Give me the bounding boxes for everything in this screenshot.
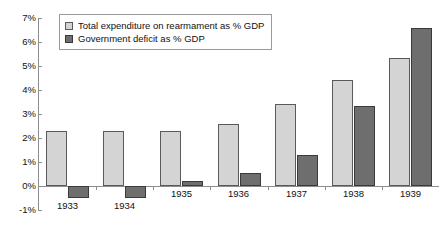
y-axis-label: 4% bbox=[2, 85, 36, 95]
y-axis-label: 7% bbox=[2, 13, 36, 23]
bar bbox=[411, 28, 432, 186]
x-axis-label: 1938 bbox=[325, 189, 382, 199]
y-axis-label: 3% bbox=[2, 109, 36, 119]
bar bbox=[332, 80, 353, 186]
x-axis-label: 1935 bbox=[153, 189, 210, 199]
bar bbox=[103, 131, 124, 186]
bar bbox=[297, 155, 318, 186]
legend-swatch-icon bbox=[65, 35, 73, 43]
y-axis-label: 5% bbox=[2, 61, 36, 71]
bar bbox=[46, 131, 67, 186]
legend-item: Total expenditure on rearmament as % GDP bbox=[65, 19, 264, 32]
x-axis-tick bbox=[96, 186, 97, 190]
bar bbox=[125, 186, 146, 198]
legend-swatch-icon bbox=[65, 22, 73, 30]
bar bbox=[160, 131, 181, 186]
bar bbox=[68, 186, 89, 198]
bar bbox=[389, 58, 410, 186]
y-axis-label: 1% bbox=[2, 157, 36, 167]
legend-label: Total expenditure on rearmament as % GDP bbox=[78, 20, 264, 31]
y-axis-label: 0% bbox=[2, 181, 36, 191]
bar bbox=[218, 124, 239, 186]
y-axis-label: -1% bbox=[2, 205, 36, 215]
x-axis-label: 1937 bbox=[268, 189, 325, 199]
y-axis-label: 2% bbox=[2, 133, 36, 143]
x-axis-label: 1933 bbox=[39, 201, 96, 211]
bar bbox=[240, 173, 261, 186]
y-axis-label: 6% bbox=[2, 37, 36, 47]
bar-chart: 7%6%5%4%3%2%1%0%-1% 19331934193519361937… bbox=[0, 0, 439, 238]
x-axis-label: 1936 bbox=[210, 189, 267, 199]
chart-legend: Total expenditure on rearmament as % GDP… bbox=[59, 14, 272, 50]
legend-item: Government deficit as % GDP bbox=[65, 32, 264, 45]
x-axis-label: 1934 bbox=[96, 201, 153, 211]
legend-label: Government deficit as % GDP bbox=[78, 33, 205, 44]
x-axis-label: 1939 bbox=[382, 189, 439, 199]
bar bbox=[182, 181, 203, 186]
bar bbox=[275, 104, 296, 186]
bar bbox=[354, 106, 375, 186]
